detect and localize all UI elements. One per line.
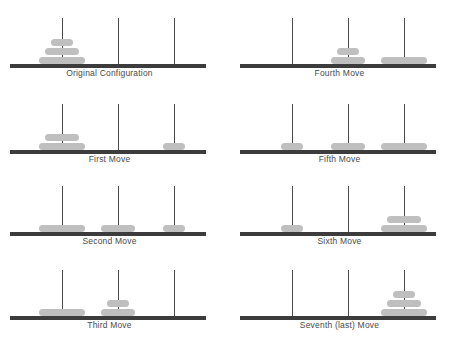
hanoi-stage — [232, 92, 447, 154]
disk-small — [163, 143, 185, 150]
disk-medium — [387, 300, 421, 307]
peg-1 — [292, 18, 293, 64]
hanoi-stage — [2, 92, 217, 154]
disk-medium — [101, 225, 135, 232]
disk-medium — [101, 309, 135, 316]
disk-large — [381, 57, 427, 64]
hanoi-stage — [232, 174, 447, 236]
panel-seventh-last-move: Seventh (last) Move — [232, 258, 447, 340]
disk-small — [281, 225, 303, 232]
hanoi-stage — [232, 258, 447, 320]
peg-3 — [174, 270, 175, 316]
disk-small — [337, 48, 359, 55]
panel-caption: Fourth Move — [232, 68, 447, 78]
disk-medium — [387, 216, 421, 223]
disk-large — [39, 225, 85, 232]
disk-small — [163, 225, 185, 232]
hanoi-stage — [232, 6, 447, 68]
disk-large — [39, 143, 85, 150]
disk-large — [381, 143, 427, 150]
panel-caption: Seventh (last) Move — [232, 320, 447, 330]
disk-small — [107, 300, 129, 307]
disk-medium — [45, 134, 79, 141]
disk-small — [281, 143, 303, 150]
peg-1 — [292, 270, 293, 316]
peg-2 — [118, 104, 119, 150]
panel-original-configuration: Original Configuration — [2, 6, 217, 88]
panel-sixth-move: Sixth Move — [232, 174, 447, 256]
hanoi-stage — [2, 258, 217, 320]
panel-caption: First Move — [2, 154, 217, 164]
tower-of-hanoi-diagram: Original ConfigurationFourth MoveFirst M… — [0, 0, 453, 346]
panel-first-move: First Move — [2, 92, 217, 174]
hanoi-stage — [2, 174, 217, 236]
panel-fourth-move: Fourth Move — [232, 6, 447, 88]
disk-large — [381, 309, 427, 316]
disk-small — [51, 39, 73, 46]
disk-large — [381, 225, 427, 232]
disk-large — [39, 57, 85, 64]
disk-medium — [331, 143, 365, 150]
panel-caption: Sixth Move — [232, 236, 447, 246]
disk-medium — [45, 48, 79, 55]
panel-caption: Fifth Move — [232, 154, 447, 164]
disk-large — [39, 309, 85, 316]
peg-2 — [118, 18, 119, 64]
peg-2 — [348, 186, 349, 232]
panel-third-move: Third Move — [2, 258, 217, 340]
panel-caption: Second Move — [2, 236, 217, 246]
hanoi-stage — [2, 6, 217, 68]
peg-2 — [348, 270, 349, 316]
disk-medium — [331, 57, 365, 64]
panel-caption: Original Configuration — [2, 68, 217, 78]
panel-second-move: Second Move — [2, 174, 217, 256]
peg-3 — [174, 18, 175, 64]
panel-caption: Third Move — [2, 320, 217, 330]
panel-fifth-move: Fifth Move — [232, 92, 447, 174]
disk-small — [393, 291, 415, 298]
